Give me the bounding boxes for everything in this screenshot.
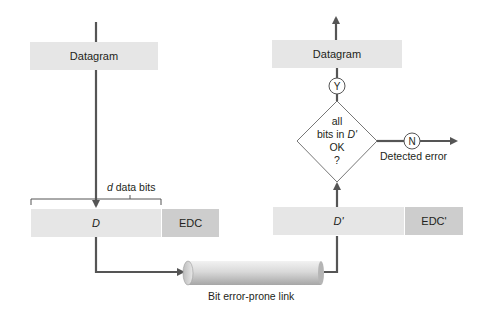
detected-error-label: Detected error bbox=[380, 150, 447, 162]
received-edc-label: EDC' bbox=[421, 215, 446, 227]
edc-label: EDC bbox=[179, 217, 202, 229]
receiver-datagram-box: Datagram bbox=[272, 40, 402, 68]
sender-datagram-box: Datagram bbox=[30, 42, 158, 70]
link-label: Bit error-prone link bbox=[208, 290, 294, 302]
no-label: N bbox=[408, 136, 415, 147]
decision-text: all bits in D' OK ? bbox=[307, 115, 367, 167]
sender-data-box: D bbox=[31, 209, 161, 237]
link-cylinder bbox=[183, 261, 324, 285]
receiver-edc-box: EDC' bbox=[405, 207, 463, 235]
data-bits-label: d data bits bbox=[107, 181, 155, 193]
received-data-label: D' bbox=[333, 215, 343, 227]
receiver-datagram-label: Datagram bbox=[313, 48, 361, 60]
receiver-data-box: D' bbox=[273, 207, 404, 235]
sender-edc-box: EDC bbox=[162, 209, 219, 237]
link-to-receiver-line bbox=[324, 236, 337, 272]
yes-label: Y bbox=[334, 81, 341, 92]
data-label: D bbox=[92, 217, 100, 229]
sender-to-link-arrow bbox=[96, 237, 183, 272]
sender-datagram-label: Datagram bbox=[70, 50, 118, 62]
